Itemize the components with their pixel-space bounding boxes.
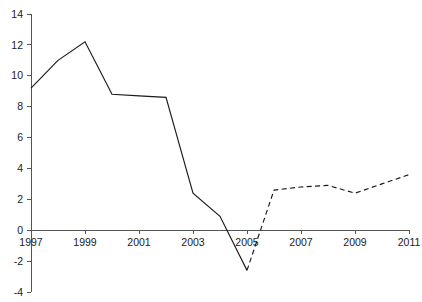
x-tick-label: 2003	[181, 236, 205, 248]
y-tick-label: -4	[14, 286, 23, 298]
y-tick-label: 8	[17, 100, 23, 112]
x-tick-label: 1997	[19, 236, 43, 248]
y-tick-label: 0	[17, 224, 23, 236]
y-tick-label: -2	[14, 255, 23, 267]
y-tick-label: 14	[11, 8, 23, 20]
series-line-forecast	[247, 175, 409, 271]
x-axis: 19971999200120032005200720092011	[19, 230, 420, 248]
x-tick-label: 2007	[289, 236, 313, 248]
chart-plot-area: 14121086420-2-4 199719992001200320052007…	[0, 0, 422, 302]
y-tick-label: 10	[11, 69, 23, 81]
x-tick-label: 2001	[127, 236, 151, 248]
y-tick-label: 12	[11, 39, 23, 51]
x-tick-label: 2009	[343, 236, 367, 248]
y-axis: 14121086420-2-4	[11, 8, 31, 298]
x-tick-label: 2011	[398, 236, 421, 248]
x-axis-ticks: 19971999200120032005200720092011	[19, 230, 420, 248]
line-chart: 14121086420-2-4 199719992001200320052007…	[0, 0, 422, 302]
y-tick-label: 6	[17, 131, 23, 143]
y-tick-label: 4	[17, 162, 23, 174]
y-axis-ticks: 14121086420-2-4	[11, 8, 31, 298]
y-tick-label: 2	[17, 193, 23, 205]
x-tick-label: 1999	[73, 236, 97, 248]
